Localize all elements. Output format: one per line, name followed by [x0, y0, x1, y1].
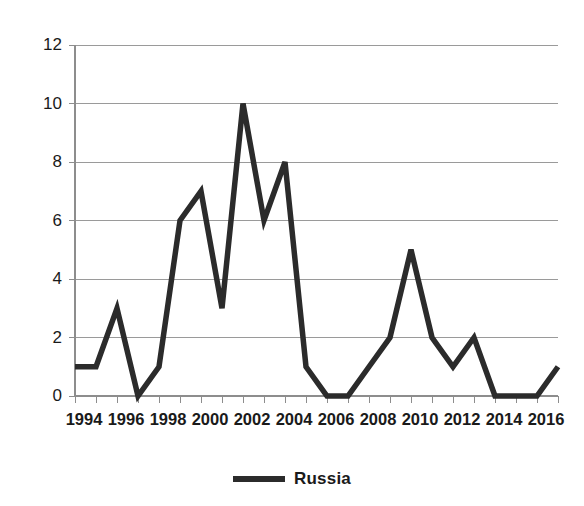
series-line-russia [75, 104, 558, 397]
x-tick-label-2002: 2002 [234, 410, 271, 428]
x-tick-label-1998: 1998 [150, 410, 187, 428]
x-tick-label-2016: 2016 [528, 410, 565, 428]
y-tick-label-6: 6 [53, 211, 62, 230]
x-tick-label-2006: 2006 [318, 410, 355, 428]
x-tick-label-2010: 2010 [402, 410, 439, 428]
x-tick-label-1994: 1994 [66, 410, 104, 428]
y-tick-label-0: 0 [53, 386, 62, 405]
y-tick-label-8: 8 [53, 152, 62, 171]
y-tick-labels: 024681012 [43, 35, 62, 405]
x-axis [75, 396, 558, 403]
plot-area: 024681012 199419961998200020022004200620… [0, 0, 584, 450]
y-tick-label-10: 10 [43, 94, 62, 113]
gridlines [75, 45, 558, 396]
x-tick-label-2012: 2012 [444, 410, 481, 428]
x-tick-label-2004: 2004 [276, 410, 314, 428]
y-tick-label-4: 4 [53, 269, 62, 288]
chart-canvas: 024681012 199419961998200020022004200620… [0, 0, 584, 450]
x-tick-label-1996: 1996 [108, 410, 145, 428]
x-tick-label-2014: 2014 [486, 410, 524, 428]
y-tick-label-2: 2 [53, 328, 62, 347]
y-tick-label-12: 12 [43, 35, 62, 54]
y-axis [69, 45, 75, 396]
line-chart: 024681012 199419961998200020022004200620… [0, 0, 584, 506]
legend-line-swatch-russia [233, 476, 285, 482]
data-series-russia [75, 104, 558, 397]
x-tick-labels: 1994199619982000200220042006200820102012… [66, 410, 565, 428]
x-tick-label-2000: 2000 [192, 410, 229, 428]
legend-label-russia: Russia [294, 469, 351, 489]
chart-legend: Russia [0, 452, 584, 506]
x-tick-label-2008: 2008 [360, 410, 397, 428]
